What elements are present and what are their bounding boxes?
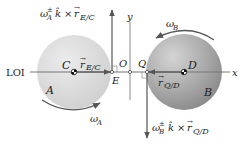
velocity-e-label: ω A ± k̂ × r → E/C	[40, 4, 95, 22]
center-c-label: C	[62, 59, 71, 72]
body-b-label: B	[203, 86, 212, 99]
point-o	[128, 70, 131, 73]
svg-text:k̂: k̂	[168, 121, 174, 133]
svg-text:→: →	[158, 73, 164, 81]
center-d-label: D	[187, 59, 197, 72]
omega-a-label: ω A	[90, 113, 102, 127]
diagram-canvas: LOI C D A B E O Q x y r → E/C r → Q/D ω …	[0, 0, 244, 145]
svg-text:×: ×	[64, 8, 72, 19]
center-c-marker	[71, 69, 77, 75]
loi-label: LOI	[6, 67, 25, 78]
svg-text:Q/D: Q/D	[164, 81, 180, 90]
svg-text:→: →	[187, 118, 193, 126]
point-q	[145, 70, 148, 73]
y-axis-label: y	[126, 11, 133, 22]
svg-text:B: B	[172, 24, 178, 32]
svg-text:k̂: k̂	[55, 7, 61, 19]
x-axis-label: x	[232, 67, 238, 78]
svg-text:A: A	[96, 119, 102, 127]
svg-text:E/C: E/C	[79, 13, 95, 22]
svg-text:±: ±	[47, 6, 53, 14]
svg-text:Q/D: Q/D	[193, 127, 209, 136]
omega-b-label: ω B	[166, 18, 178, 32]
svg-text:B: B	[158, 128, 164, 136]
svg-text:×: ×	[177, 122, 185, 133]
svg-text:→: →	[80, 55, 86, 63]
velocity-q-label: ω B ± k̂ × r → Q/D	[152, 118, 209, 136]
svg-text:E/C: E/C	[85, 63, 101, 72]
point-e-label: E	[111, 75, 120, 86]
point-q-label: Q	[138, 58, 146, 69]
point-e	[110, 70, 113, 73]
svg-text:→: →	[74, 4, 80, 12]
body-a-label: A	[45, 84, 54, 97]
svg-text:±: ±	[159, 120, 165, 128]
svg-text:A: A	[46, 14, 52, 22]
center-d-marker	[181, 69, 187, 75]
point-o-label: O	[119, 58, 127, 69]
